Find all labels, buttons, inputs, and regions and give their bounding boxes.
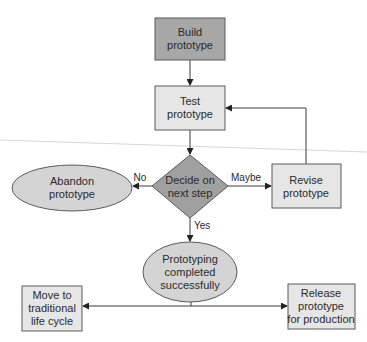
node-decide-next-step: Decide on next step [152, 155, 228, 218]
node-label-line: Build [178, 26, 202, 38]
node-label-line: for production [287, 313, 354, 325]
edge-revise-to-test [226, 108, 306, 164]
node-build-prototype: Build prototype [155, 18, 225, 60]
node-revise-prototype: Revise prototype [272, 164, 341, 208]
node-abandon-prototype: Abandon prototype [12, 165, 132, 211]
node-release-prototype: Release prototype for production [287, 284, 355, 329]
node-label-line: prototype [49, 188, 95, 200]
node-label-line: Revise [289, 174, 323, 186]
node-label-line: prototype [167, 39, 213, 51]
node-move-to-traditional: Move to traditional life cycle [22, 286, 82, 331]
node-label-line: prototype [283, 187, 329, 199]
background-divider [0, 140, 367, 152]
node-label-line: Abandon [50, 175, 94, 187]
node-label-line: Prototyping [162, 253, 218, 265]
node-prototyping-completed: Prototyping completed successfully [143, 242, 237, 302]
node-label-line: completed [165, 266, 216, 278]
node-label-line: Move to [32, 289, 71, 301]
node-label-line: life cycle [31, 315, 73, 327]
node-label-line: prototype [298, 300, 344, 312]
edge-label-no: No [134, 172, 147, 183]
node-label-line: next step [168, 187, 213, 199]
node-label-line: Test [180, 95, 200, 107]
edge-label-maybe: Maybe [231, 172, 261, 183]
node-test-prototype: Test prototype [155, 86, 225, 130]
node-label-line: traditional [28, 302, 76, 314]
node-label-line: Decide on [165, 174, 215, 186]
node-label-line: Release [301, 287, 341, 299]
flowchart-canvas: No Maybe Yes Build prototype Test protot… [0, 0, 367, 342]
node-label-line: successfully [160, 279, 220, 291]
node-label-line: prototype [167, 108, 213, 120]
edge-label-yes: Yes [194, 220, 210, 231]
